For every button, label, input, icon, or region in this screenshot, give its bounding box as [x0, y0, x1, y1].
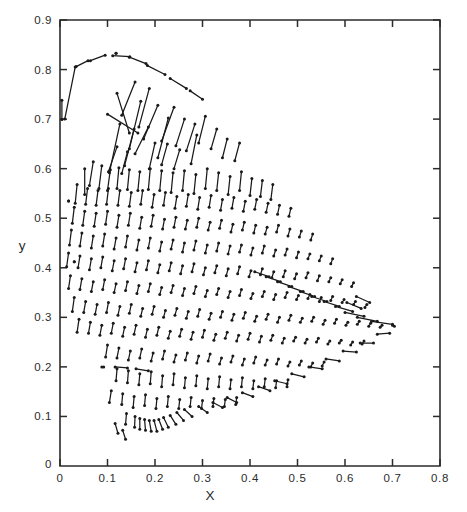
segment-endpoint [138, 428, 141, 431]
segment-endpoint [211, 405, 214, 408]
segment-endpoint [184, 358, 187, 361]
segment-endpoint [193, 123, 196, 126]
y-tick-label: 0.7 [34, 113, 52, 125]
segment-endpoint [341, 301, 344, 304]
segment-endpoint [201, 336, 204, 339]
segment-endpoint [297, 294, 300, 297]
segment-endpoint [87, 332, 90, 335]
y-tick-label: 0.8 [34, 64, 52, 76]
segment-endpoint [172, 239, 175, 242]
segment-endpoint [341, 278, 344, 281]
segment-endpoint [192, 331, 195, 334]
segment-endpoint [174, 216, 177, 219]
segment-endpoint [196, 208, 199, 211]
segment-endpoint [203, 329, 206, 332]
segment-endpoint [307, 365, 310, 368]
segment-endpoint [305, 276, 308, 279]
segment-endpoint [195, 374, 198, 377]
segment-endpoint [214, 333, 217, 336]
segment-endpoint [70, 229, 73, 232]
segment-endpoint [129, 350, 132, 353]
segment-endpoint [237, 334, 240, 337]
segment-endpoint [287, 378, 290, 381]
segment-endpoint [143, 418, 146, 421]
segment-endpoint [233, 159, 236, 162]
segment-endpoint [266, 358, 269, 361]
segment-endpoint [173, 360, 176, 363]
segment-endpoint [287, 215, 290, 218]
segment-endpoint [179, 272, 182, 275]
segment-endpoint [116, 145, 119, 148]
segment-endpoint [161, 374, 164, 377]
segment-endpoint [297, 250, 300, 253]
segment-endpoint [263, 244, 266, 247]
segment-endpoint [393, 325, 396, 328]
segment-endpoint [110, 332, 113, 335]
segment-endpoint [243, 357, 246, 360]
segment-endpoint [126, 188, 129, 191]
segment-endpoint [173, 372, 176, 375]
segment-endpoint [272, 298, 275, 301]
segment-endpoint [269, 198, 272, 201]
segment-endpoint [156, 271, 159, 274]
segment-endpoint [110, 389, 113, 392]
segment-endpoint [331, 295, 334, 298]
segment-endpoint [204, 295, 207, 298]
segment-endpoint [111, 54, 114, 57]
segment-endpoint [265, 211, 268, 214]
segment-endpoint [202, 273, 205, 276]
segment-endpoint [104, 54, 107, 57]
segment-endpoint [136, 131, 139, 134]
segment-endpoint [67, 199, 70, 202]
segment-endpoint [95, 204, 98, 207]
segment-endpoint [201, 98, 204, 101]
segment-endpoint [162, 204, 165, 207]
segment-endpoint [277, 357, 280, 360]
segment-endpoint [130, 303, 133, 306]
segment-endpoint [135, 248, 138, 251]
segment-endpoint [312, 316, 315, 319]
segment-endpoint [287, 364, 290, 367]
segment-endpoint [358, 320, 361, 323]
segment-endpoint [134, 80, 137, 83]
segment-endpoint [73, 296, 76, 299]
segment-endpoint [71, 310, 74, 313]
segment-endpoint [209, 221, 212, 224]
segment-endpoint [145, 268, 148, 271]
segment-endpoint [192, 248, 195, 251]
segment-endpoint [295, 256, 298, 259]
segment-endpoint [73, 206, 76, 209]
segment-endpoint [321, 364, 324, 367]
segment-endpoint [149, 167, 152, 170]
segment-endpoint [217, 287, 220, 290]
segment-endpoint [318, 274, 321, 277]
segment-endpoint [118, 123, 121, 126]
segment-endpoint [169, 330, 172, 333]
segment-endpoint [236, 272, 239, 275]
segment-endpoint [89, 59, 92, 62]
segment-endpoint [302, 290, 305, 293]
segment-endpoint [235, 401, 238, 404]
segment-endpoint [257, 385, 260, 388]
segment-endpoint [253, 208, 256, 211]
segment-endpoint [327, 280, 330, 283]
segment-endpoint [253, 270, 256, 273]
segment-endpoint [160, 286, 163, 289]
segment-endpoint [114, 422, 117, 425]
segment-endpoint [68, 243, 71, 246]
segment-endpoint [355, 295, 358, 298]
segment-endpoint [209, 353, 212, 356]
segment-endpoint [241, 391, 244, 394]
segment-endpoint [112, 322, 115, 325]
segment-endpoint [120, 403, 123, 406]
segment-endpoint [154, 407, 157, 410]
segment-endpoint [300, 359, 303, 362]
segment-endpoint [121, 429, 124, 432]
segment-endpoint [164, 191, 167, 194]
segment-endpoint [208, 206, 211, 209]
segment-endpoint [255, 198, 258, 201]
segment-endpoint [116, 432, 119, 435]
segment-endpoint [201, 399, 204, 402]
segment-endpoint [134, 415, 137, 418]
segment-endpoint [80, 232, 83, 235]
